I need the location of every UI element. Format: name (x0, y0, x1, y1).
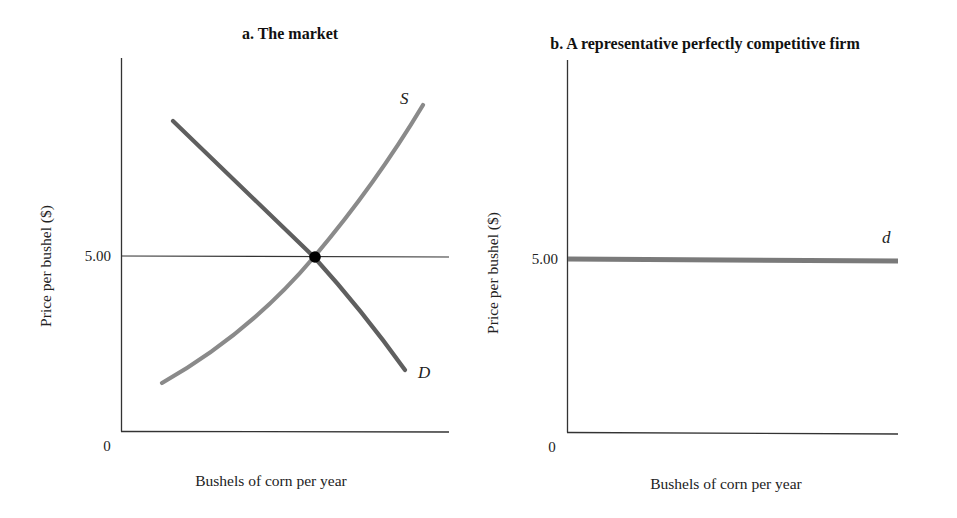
panel-a-supply-label: S (400, 89, 409, 108)
panel-b-x-axis-label: Bushels of corn per year (650, 475, 802, 492)
panel-b-x-axis (567, 433, 898, 435)
panel-a-demand-curve (173, 121, 405, 370)
panel-a-equilibrium-point (309, 251, 321, 263)
panel-a-title: a. The market (242, 25, 339, 42)
chart-canvas: a. The market S D 5.00 0 Bushels of corn… (0, 0, 957, 518)
panel-a-market: a. The market S D 5.00 0 Bushels of corn… (37, 25, 449, 489)
panel-b-origin-label: 0 (548, 439, 556, 455)
panel-a-x-axis (121, 432, 449, 433)
panel-b-firm: b. A representative perfectly competitiv… (484, 35, 898, 492)
panel-a-price-tick-label: 5.00 (85, 248, 111, 264)
panel-a-x-axis-label: Bushels of corn per year (195, 472, 347, 489)
panel-b-title: b. A representative perfectly competitiv… (550, 35, 860, 53)
figure-market-vs-firm: a. The market S D 5.00 0 Bushels of corn… (0, 0, 957, 518)
panel-a-demand-label: D (417, 363, 431, 382)
panel-a-y-axis-label: Price per bushel ($) (37, 205, 55, 327)
panel-a-origin-label: 0 (103, 438, 111, 454)
panel-b-y-axis-label: Price per bushel ($) (484, 212, 502, 334)
panel-b-firm-demand-curve (568, 259, 898, 261)
panel-b-firm-demand-label: d (882, 228, 891, 247)
panel-b-price-tick-label: 5.00 (532, 251, 558, 267)
panel-a-price-line (121, 256, 449, 257)
